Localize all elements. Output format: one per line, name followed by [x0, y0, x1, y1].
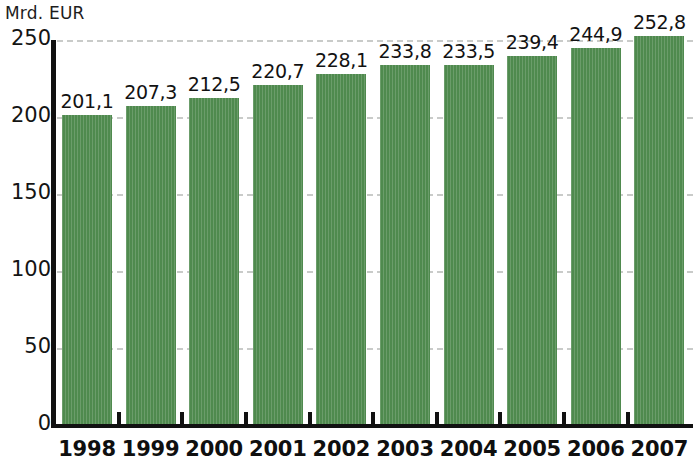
- x-axis-year-labels: 1998199920002001200220032004200520062007: [57, 437, 693, 466]
- bar: [507, 56, 557, 425]
- bar: [380, 65, 430, 425]
- x-axis-year-label: 2001: [247, 437, 309, 461]
- x-axis-year-label: 1998: [56, 437, 118, 461]
- bar-value-label: 244,9: [562, 23, 630, 45]
- bar-value-label: 233,8: [371, 40, 439, 62]
- bar: [571, 48, 621, 425]
- x-axis-year-label: 2005: [501, 437, 563, 461]
- x-axis-year-label: 2007: [628, 437, 690, 461]
- y-axis-tick-label: 0: [5, 411, 51, 435]
- bar-chart: Mrd. EUR 050100150200250 201,1207,3212,5…: [0, 0, 693, 466]
- bar: [634, 36, 684, 425]
- y-axis-unit-label: Mrd. EUR: [5, 3, 85, 23]
- bar: [189, 98, 239, 425]
- y-axis-tick-label: 50: [5, 334, 51, 358]
- y-axis-tick-label: 150: [5, 180, 51, 204]
- bar: [444, 65, 494, 425]
- y-axis-tick-label: 100: [5, 257, 51, 281]
- bar-value-label: 220,7: [244, 60, 312, 82]
- x-axis-year-label: 2000: [183, 437, 245, 461]
- y-axis-tick-label: 250: [5, 26, 51, 50]
- x-axis-year-label: 2002: [310, 437, 372, 461]
- x-axis-year-label: 1999: [120, 437, 182, 461]
- bar: [62, 115, 112, 425]
- x-axis-year-label: 2004: [438, 437, 500, 461]
- bar-value-label: 228,1: [307, 49, 375, 71]
- bar-value-label: 239,4: [498, 31, 566, 53]
- bar-value-label: 207,3: [117, 81, 185, 103]
- bar: [253, 85, 303, 425]
- y-axis-tick-label: 200: [5, 103, 51, 127]
- x-axis-line: [51, 424, 693, 428]
- bar: [126, 106, 176, 425]
- bar-value-label: 201,1: [53, 90, 121, 112]
- bar: [316, 74, 366, 425]
- bar-value-label: 233,5: [435, 40, 503, 62]
- x-axis-year-label: 2003: [374, 437, 436, 461]
- bar-value-label: 252,8: [625, 11, 693, 33]
- bar-value-label: 212,5: [180, 73, 248, 95]
- x-axis-year-label: 2006: [565, 437, 627, 461]
